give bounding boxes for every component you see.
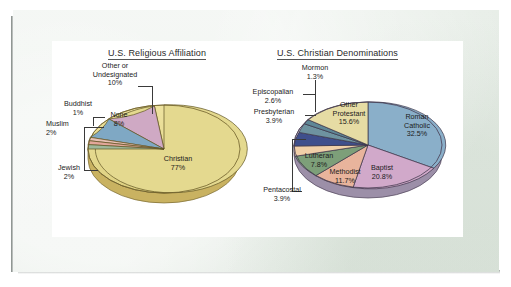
pie-left-svg [86,93,242,205]
label-other-undesignated-value: 10% [108,78,122,87]
chart-title-left: U.S. Religious Affiliation [108,48,206,60]
leader-episcopalian-v [315,94,316,112]
label-roman-catholic-value: 32.5% [407,129,427,138]
label-pentacostal: Pentacostal 3.9% [253,186,311,203]
label-other-protestant: Other Protestant 15.6% [327,101,371,127]
label-baptist-value: 20.8% [372,172,392,181]
label-roman-catholic: Roman Catholic 32.5% [396,113,438,139]
label-mormon-value: 1.3% [307,72,323,81]
label-lutheran: Lutheran 7.8% [300,152,338,169]
label-buddhist-value: 1% [73,108,83,117]
label-lutheran-value: 7.8% [311,160,327,169]
pie-chart-religious-affiliation [86,93,242,205]
label-christian: Christian 77% [152,155,204,172]
leader-pentacostal-v [292,139,293,191]
leader-pentacostal-h [292,139,306,140]
chart-title-right: U.S. Christian Denominations [277,48,398,60]
label-presbyterian: Presbyterian 3.9% [245,108,303,125]
label-pentacostal-value: 3.9% [274,194,290,203]
label-methodist: Methodist 11.7% [323,168,367,185]
label-muslim-value: 2% [46,128,56,137]
leader-buddhist-v [93,117,94,126]
label-presbyterian-value: 3.9% [266,116,282,125]
label-methodist-value: 11.7% [335,176,355,185]
label-none: None 8% [104,111,134,128]
label-jewish: Jewish 2% [48,164,90,181]
label-christian-value: 77% [171,163,185,172]
label-buddhist: Buddhist 1% [56,100,100,117]
label-episcopalian: Episcopalian 2.6% [244,88,302,105]
label-jewish-value: 2% [64,172,74,181]
leader-episcopalian-h [303,94,315,95]
label-mormon: Mormon 1.3% [293,64,337,81]
leader-presbyterian-h [305,115,316,116]
label-none-value: 8% [114,119,124,128]
label-episcopalian-value: 2.6% [265,96,281,105]
label-baptist: Baptist 20.8% [363,164,401,181]
leader-other-undesignated-v [152,86,153,114]
label-muslim: Muslim 2% [46,120,88,137]
label-other-undesignated: Other or Undesignated 10% [82,62,148,88]
label-other-protestant-value: 15.6% [339,117,359,126]
figure-root: U.S. Religious Affiliation U.S. Christia… [0,0,511,287]
